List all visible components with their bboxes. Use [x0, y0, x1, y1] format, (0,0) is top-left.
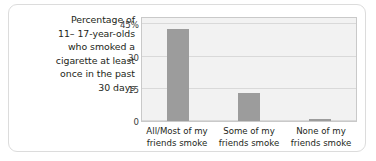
y-axis-tick-label: 30 [99, 53, 139, 63]
x-axis-tick-label-line: friends smoke [141, 138, 213, 150]
x-axis-tick-label: All/Most of my friends smoke [141, 126, 213, 152]
y-axis-tick-labels: 0 15 30 45% [95, 17, 139, 122]
plot-area [141, 17, 357, 122]
x-axis-tick-label: Some of my friends smoke [213, 126, 285, 152]
chart-card: Percentage of 11– 17-year-olds who smoke… [8, 4, 366, 152]
y-axis-tick-label: 15 [99, 85, 139, 95]
y-axis-tick-label: 45% [99, 20, 139, 30]
chart-plot-region [141, 17, 357, 122]
x-axis-tick-label-line: friends smoke [285, 138, 357, 150]
bar [309, 119, 331, 121]
x-axis-tick-label-line: None of my [285, 126, 357, 138]
x-axis-tick-label-line: friends smoke [213, 138, 285, 150]
bar [167, 29, 189, 121]
x-axis-tick-label-line: Some of my [213, 126, 285, 138]
x-axis-tick-labels: All/Most of my friends smoke Some of my … [141, 126, 357, 152]
y-axis-tick-label: 0 [99, 117, 139, 127]
x-axis-tick-label: None of my friends smoke [285, 126, 357, 152]
gridline [142, 23, 356, 24]
x-axis-tick-label-line: All/Most of my [141, 126, 213, 138]
bar [238, 93, 260, 121]
